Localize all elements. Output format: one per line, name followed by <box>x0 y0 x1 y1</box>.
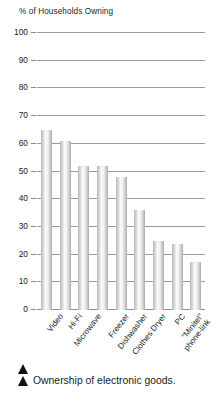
bar-series <box>37 33 205 310</box>
triangle-up-icon <box>18 364 28 387</box>
y-tick-mark <box>31 60 36 61</box>
y-tick-mark <box>31 254 36 255</box>
y-tick-label: 20 <box>19 249 28 259</box>
chart-figure: % of Households Owning 01020304050607080… <box>0 0 220 408</box>
y-tick-label: 40 <box>19 193 28 203</box>
y-tick-label: 90 <box>19 55 28 65</box>
y-tick-label: 70 <box>19 110 28 120</box>
y-tick-label: 60 <box>19 138 28 148</box>
x-axis-labels: VideoHi-FiMicrowaveFreezerDishwasherClot… <box>37 312 212 372</box>
plot-area: 0102030405060708090100 <box>37 33 205 310</box>
y-tick-mark <box>31 171 36 172</box>
x-axis-label: Hi-Fi <box>66 312 84 331</box>
bar <box>172 244 183 310</box>
y-tick-mark <box>31 143 36 144</box>
figure-caption: Ownership of electronic goods. <box>18 364 218 387</box>
y-tick-label: 50 <box>19 166 28 176</box>
y-tick-label: 10 <box>19 276 28 286</box>
y-tick-mark <box>31 309 36 310</box>
caption-text: Ownership of electronic goods. <box>33 375 176 387</box>
x-axis-label: PC <box>173 312 187 326</box>
y-tick-mark <box>31 32 36 33</box>
bar <box>97 166 108 310</box>
y-tick-mark <box>31 87 36 88</box>
bar <box>190 262 201 310</box>
y-tick-label: 100 <box>14 27 28 37</box>
y-tick-label: 30 <box>19 221 28 231</box>
y-tick-mark <box>31 226 36 227</box>
y-axis-title: % of Households Owning <box>19 7 113 16</box>
x-axis-label: Video <box>46 312 66 334</box>
bar <box>134 210 145 310</box>
y-tick-mark <box>31 281 36 282</box>
y-tick-mark <box>31 115 36 116</box>
bar <box>78 166 89 310</box>
bar <box>41 130 52 310</box>
bar <box>116 177 127 310</box>
y-tick-mark <box>31 198 36 199</box>
y-tick-label: 0 <box>23 304 28 314</box>
bar <box>60 141 71 310</box>
y-tick-label: 80 <box>19 82 28 92</box>
bar <box>153 241 164 310</box>
